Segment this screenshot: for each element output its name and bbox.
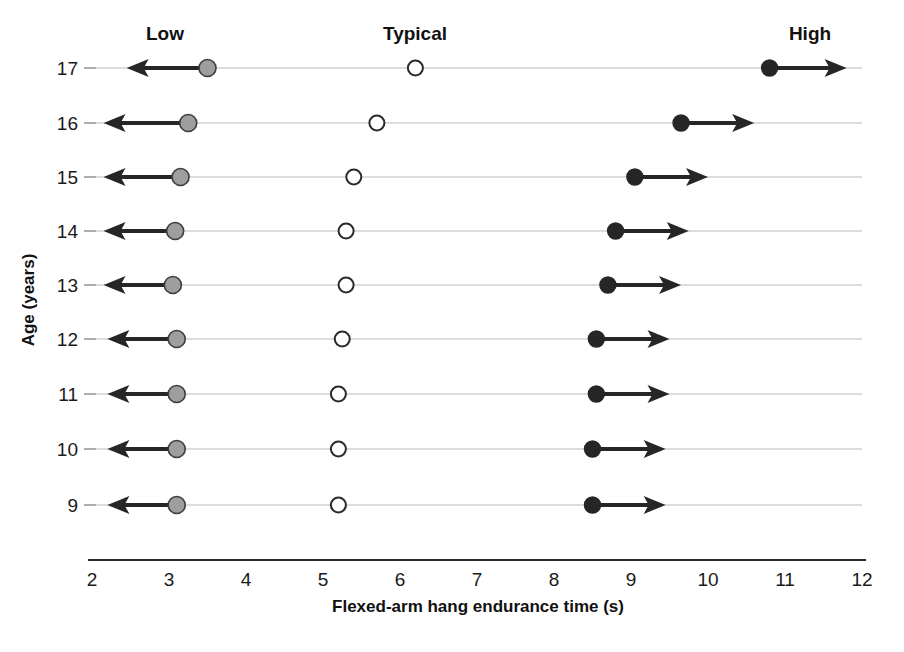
column-header-low: Low: [146, 23, 184, 44]
typical-marker-age-16: [369, 116, 384, 131]
low-marker-age-15: [172, 169, 189, 186]
x-tick-label-12: 12: [851, 569, 872, 590]
typical-marker-age-11: [331, 387, 346, 402]
high-marker-age-17: [762, 60, 778, 76]
low-marker-age-14: [167, 223, 184, 240]
gridline-group: [96, 68, 862, 505]
y-tick-label-group: 17161514131211109: [57, 58, 79, 516]
low-marker-age-10: [168, 441, 185, 458]
y-tick-label-15: 15: [57, 167, 78, 188]
y-tick-label-16: 16: [57, 113, 78, 134]
x-tick-label-7: 7: [472, 569, 483, 590]
y-tick-label-11: 11: [58, 384, 78, 405]
typical-marker-age-15: [346, 170, 361, 185]
low-marker-age-9: [168, 497, 185, 514]
chart-canvas: LowTypicalHigh 17161514131211109 2345678…: [0, 0, 904, 652]
high-marker-age-12: [588, 331, 604, 347]
high-marker-age-9: [585, 497, 601, 513]
low-marker-age-11: [168, 386, 185, 403]
typical-marker-age-13: [339, 278, 354, 293]
high-marker-age-14: [608, 223, 624, 239]
x-tick-label-10: 10: [697, 569, 718, 590]
y-tick-label-12: 12: [57, 329, 78, 350]
x-tick-label-8: 8: [549, 569, 560, 590]
x-tick-label-5: 5: [318, 569, 329, 590]
x-axis-title: Flexed-arm hang endurance time (s): [332, 597, 624, 616]
high-marker-age-15: [627, 169, 643, 185]
low-marker-age-16: [180, 115, 197, 132]
column-header-high: High: [789, 23, 831, 44]
typical-marker-age-10: [331, 442, 346, 457]
high-marker-age-11: [588, 386, 604, 402]
x-tick-label-2: 2: [87, 569, 98, 590]
y-axis-title: Age (years): [19, 254, 38, 347]
low-marker-age-17: [199, 60, 216, 77]
low-marker-age-13: [164, 277, 181, 294]
x-tick-label-4: 4: [241, 569, 252, 590]
high-marker-age-16: [673, 115, 689, 131]
column-header-group: LowTypicalHigh: [146, 23, 831, 44]
y-tick-label-14: 14: [57, 221, 79, 242]
y-tick-label-9: 9: [67, 495, 78, 516]
data-series-group: [104, 59, 847, 514]
low-marker-age-12: [168, 331, 185, 348]
typical-marker-age-17: [408, 61, 423, 76]
x-tick-label-11: 11: [775, 569, 795, 590]
high-marker-age-10: [585, 441, 601, 457]
y-tick-mark-group: [84, 68, 96, 505]
y-tick-label-10: 10: [57, 439, 78, 460]
typical-marker-age-12: [335, 332, 350, 347]
x-tick-label-3: 3: [164, 569, 175, 590]
typical-marker-age-9: [331, 498, 346, 513]
y-tick-label-13: 13: [57, 275, 78, 296]
typical-marker-age-14: [339, 224, 354, 239]
flexed-arm-hang-chart: LowTypicalHigh 17161514131211109 2345678…: [0, 0, 904, 652]
x-tick-label-6: 6: [395, 569, 406, 590]
column-header-typical: Typical: [383, 23, 447, 44]
y-tick-label-17: 17: [57, 58, 78, 79]
high-marker-age-13: [600, 277, 616, 293]
x-tick-label-9: 9: [626, 569, 637, 590]
x-tick-label-group: 23456789101112: [87, 569, 873, 590]
